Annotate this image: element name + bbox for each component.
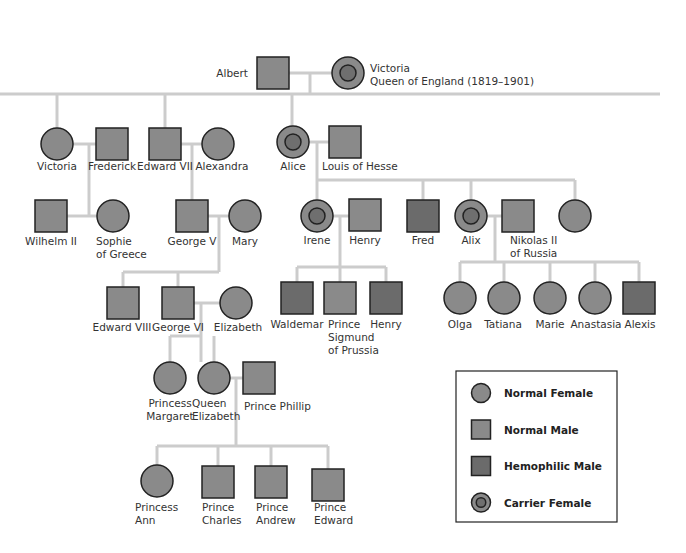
person-name-label: Fred: [412, 234, 435, 246]
normal-male-square-icon: [329, 126, 361, 158]
person-name-label: Victoria: [37, 160, 77, 172]
person-name-label: Albert: [216, 67, 248, 79]
person-name-label: Irene: [304, 234, 331, 246]
person-name-label: Ann: [135, 514, 156, 526]
person-waldemar: Waldemar: [270, 282, 324, 330]
person-name-label: Henry: [370, 318, 402, 330]
legend: Normal FemaleNormal MaleHemophilic MaleC…: [456, 371, 617, 522]
person-name-label: Sigmund: [328, 331, 374, 343]
normal-male-square-icon: [472, 420, 491, 439]
person-name-label: Prince: [202, 501, 234, 513]
person-princess-ann: PrincessAnn: [135, 465, 178, 526]
person-name-label: Queen: [192, 397, 227, 409]
normal-female-circle-icon: [41, 128, 73, 160]
person-name-label: Prince Phillip: [244, 400, 311, 412]
legend-label: Hemophilic Male: [504, 460, 602, 472]
normal-female-circle-icon: [559, 200, 591, 232]
normal-female-circle-icon: [488, 282, 520, 314]
person-name-label: Marie: [535, 318, 564, 330]
person-prince-charles: PrinceCharles: [202, 466, 242, 526]
carrier-dot-icon: [476, 498, 486, 508]
normal-female-circle-icon: [202, 128, 234, 160]
person-name-label: Elizabeth: [214, 321, 262, 333]
person-name-label: Alexandra: [195, 160, 248, 172]
normal-female-circle-icon: [579, 282, 611, 314]
person-name-label: Alexis: [625, 318, 656, 330]
person-name-label: Prince: [314, 501, 346, 513]
person-name-label: Princess: [135, 501, 178, 513]
person-victoria-queen: VictoriaQueen of England (1819–1901): [332, 57, 534, 89]
normal-male-square-icon: [349, 199, 381, 231]
person-name-label: Henry: [349, 234, 381, 246]
carrier-dot-icon: [340, 65, 356, 81]
person-sophie-of-greece: Sophieof Greece: [96, 200, 147, 260]
person-george-vi: George VI: [152, 287, 204, 333]
person-name-label: Frederick: [88, 160, 137, 172]
person-marie: Marie: [534, 282, 566, 330]
person-louis-of-hesse: Louis of Hesse: [322, 126, 398, 172]
normal-female-circle-icon: [154, 362, 186, 394]
normal-female-circle-icon: [198, 362, 230, 394]
normal-female-circle-icon: [220, 287, 252, 319]
pedigree-diagram: AlbertVictoriaQueen of England (1819–190…: [0, 0, 686, 553]
hemophilic-male-square-icon: [370, 282, 402, 314]
person-name-label: Princess: [148, 397, 191, 409]
person-prince-phillip: Prince Phillip: [243, 362, 311, 412]
person-name-label: Victoria: [370, 62, 410, 74]
person-princess-margaret: PrincessMargaret: [146, 362, 193, 422]
person-alice: Alice: [277, 126, 309, 172]
person-edward-viii: Edward VIII: [93, 287, 152, 333]
normal-female-circle-icon: [444, 282, 476, 314]
person-name-label: Alice: [280, 160, 305, 172]
person-henry-hemophilic: Henry: [370, 282, 402, 330]
normal-male-square-icon: [107, 287, 139, 319]
person-prince-andrew: PrinceAndrew: [255, 466, 296, 526]
person-irene: Irene: [301, 200, 333, 246]
person-name-label: Louis of Hesse: [322, 160, 398, 172]
person-george-v: George V: [168, 200, 218, 247]
person-queen-elizabeth: QueenElizabeth: [192, 362, 240, 422]
normal-male-square-icon: [312, 469, 344, 501]
normal-male-square-icon: [35, 200, 67, 232]
person-name-label: Wilhelm II: [25, 235, 77, 247]
person-mary: Mary: [229, 200, 261, 247]
normal-male-square-icon: [257, 57, 289, 89]
person-name-label: Queen of England (1819–1901): [370, 75, 534, 87]
person-alexis: Alexis: [623, 282, 655, 330]
normal-female-circle-icon: [141, 465, 173, 497]
legend-label: Normal Female: [504, 387, 593, 399]
person-name-label: Waldemar: [270, 318, 324, 330]
person-name-label: Edward VIII: [93, 321, 152, 333]
person-name-label: Alix: [461, 234, 480, 246]
hemophilic-male-square-icon: [623, 282, 655, 314]
normal-female-circle-icon: [97, 200, 129, 232]
normal-male-square-icon: [324, 282, 356, 314]
person-name-label: Prince: [256, 501, 288, 513]
person-wilhelm-ii: Wilhelm II: [25, 200, 77, 247]
person-anastasia: Anastasia: [570, 282, 621, 330]
person-tatiana: Tatiana: [483, 282, 522, 330]
person-henry-prussia: Henry: [349, 199, 381, 246]
person-albert: Albert: [216, 57, 289, 89]
person-fred: Fred: [407, 200, 439, 246]
person-olga: Olga: [444, 282, 476, 330]
person-name-label: Olga: [448, 318, 472, 330]
person-edward-vii: Edward VII: [137, 128, 193, 172]
person-name-label: of Prussia: [328, 344, 379, 356]
person-unnamed-daughter: [559, 200, 591, 232]
person-name-label: Tatiana: [483, 318, 522, 330]
normal-female-circle-icon: [472, 384, 491, 403]
person-name-label: Edward VII: [137, 160, 193, 172]
person-name-label: Margaret: [146, 410, 193, 422]
person-name-label: Sophie: [96, 235, 132, 247]
legend-label: Carrier Female: [504, 497, 591, 509]
normal-male-square-icon: [502, 200, 534, 232]
normal-male-square-icon: [243, 362, 275, 394]
person-name-label: George VI: [152, 321, 204, 333]
normal-male-square-icon: [96, 128, 128, 160]
person-name-label: George V: [168, 235, 218, 247]
person-victoria-princess: Victoria: [37, 128, 77, 172]
person-alix: Alix: [455, 200, 487, 246]
person-name-label: of Greece: [96, 248, 147, 260]
person-prince-edward: PrinceEdward: [312, 469, 353, 526]
